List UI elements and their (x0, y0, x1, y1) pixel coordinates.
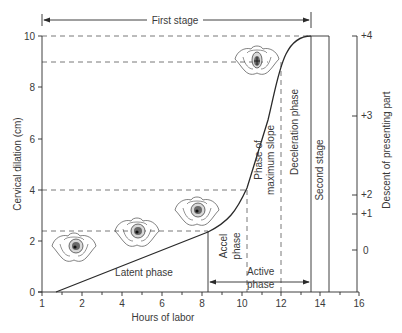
x-tick-12: 12 (275, 298, 287, 309)
x-tick-10: 10 (236, 298, 248, 309)
second-stage-label: Second stage (314, 139, 325, 201)
accel-phase-label-1: Accel (218, 234, 229, 258)
active-phase-label-1: Active (247, 266, 275, 277)
y2-tick-plus3: +3 (361, 110, 373, 121)
x-tick-4: 4 (119, 298, 125, 309)
x-tick-6: 6 (159, 298, 165, 309)
y-axis-right (352, 36, 357, 292)
labor-curve-diagram: 10 8 6 4 2 0 Cervical dilation (cm) 1 2 … (0, 0, 402, 333)
x-tick-1: 1 (39, 298, 45, 309)
deceleration-phase-label: Deceleration phase (289, 88, 300, 175)
y-tick-6: 6 (29, 134, 35, 145)
pelvis-illustration-4 (235, 46, 279, 74)
max-slope-label-1: Phase of (253, 140, 264, 180)
active-phase-label-2: phase (247, 279, 275, 290)
max-slope-label-2: maximum slope (265, 125, 276, 195)
y2-tick-plus4: +4 (361, 30, 373, 41)
y-tick-0: 0 (29, 287, 35, 298)
x-tick-8: 8 (199, 298, 205, 309)
x-tick-16: 16 (353, 298, 365, 309)
pelvis-illustration-2 (115, 218, 159, 246)
y-tick-8: 8 (29, 82, 35, 93)
y2-tick-plus2: +2 (361, 189, 373, 200)
y2-tick-0: 0 (363, 245, 369, 256)
x-axis (38, 292, 359, 296)
latent-phase-label: Latent phase (115, 267, 173, 278)
y-axis-label: Cervical dilation (cm) (12, 117, 23, 210)
accel-phase-label-2: phase (231, 232, 242, 260)
y-tick-4: 4 (29, 185, 35, 196)
x-tick-14: 14 (314, 298, 326, 309)
pelvis-illustration-3 (175, 197, 219, 225)
y-tick-10: 10 (24, 31, 36, 42)
y-tick-2: 2 (29, 236, 35, 247)
y2-axis-label: Descent of presenting part (381, 91, 392, 209)
y2-tick-plus1: +1 (361, 208, 373, 219)
pelvis-illustration-1 (52, 233, 96, 261)
x-axis-label: Hours of labor (132, 312, 195, 323)
x-tick-2: 2 (79, 298, 85, 309)
first-stage-label: First stage (152, 15, 199, 26)
y-axis-left (38, 36, 42, 292)
